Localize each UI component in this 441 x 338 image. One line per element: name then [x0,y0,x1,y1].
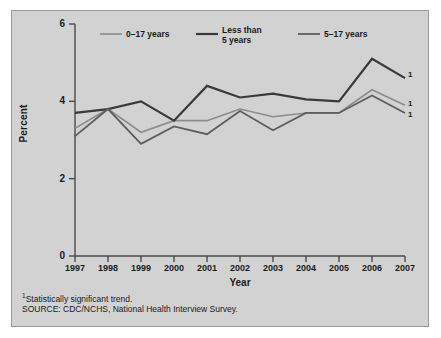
legend-label-5-17: 5–17 years [324,29,368,39]
endnote-marker-0-17: 1 [408,99,412,108]
endnote-marker-5-17: 1 [408,110,412,119]
chart-series-group [75,59,405,144]
x-axis-title: Year [75,277,405,288]
legend-label-0-17: 0–17 years [126,29,170,39]
footnote-significant-trend: 1Statistically significant trend. [22,292,132,304]
y-axis-tick-label: 4 [43,95,65,106]
legend-label-less-than-5: Less than 5 years [222,25,262,45]
y-axis-tick-label: 2 [43,173,65,184]
footnote-source: SOURCE: CDC/NCHS, National Health Interv… [22,304,238,314]
x-axis-ticks [75,256,405,262]
endnote-marker-less-than-5: 1 [408,70,412,79]
y-axis-ticks [69,24,75,256]
x-axis-tick-label: 2007 [385,263,425,273]
chart-page: Percent Year 0246 1997199819992000200120… [0,0,441,338]
y-axis-tick-label: 6 [43,18,65,29]
chart-axes [75,24,405,256]
footnote-text: Statistically significant trend. [26,294,133,304]
y-axis-title: Percent [18,94,29,154]
y-axis-tick-label: 0 [43,250,65,261]
